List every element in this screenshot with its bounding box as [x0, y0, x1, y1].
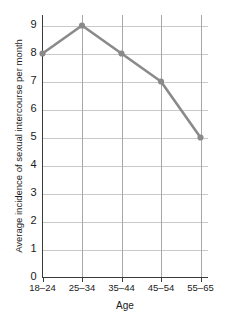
- x-axis-tick-label: 18–24: [29, 282, 55, 293]
- chart-canvas: 0123456789 18–2425–3435–4445–5455–65 Age…: [0, 0, 229, 325]
- y-axis-tick-label: 8: [30, 46, 36, 58]
- data-point-marker: [118, 50, 124, 56]
- y-axis-tick-label: 7: [30, 74, 36, 86]
- x-axis-tick-label: 55–65: [187, 282, 213, 293]
- y-axis-tick-label: 5: [30, 130, 36, 142]
- y-axis-tick-label: 0: [30, 270, 36, 282]
- y-axis-tick-label: 2: [30, 214, 36, 226]
- y-axis-tick-label: 3: [30, 186, 36, 198]
- data-point-marker: [79, 22, 85, 28]
- y-axis-tick-label: 1: [30, 242, 36, 254]
- line-chart: 0123456789 18–2425–3435–4445–5455–65 Age…: [0, 0, 229, 325]
- y-axis-tick-label: 6: [30, 102, 36, 114]
- y-axis-title: Average incidence of sexual intercourse …: [13, 39, 24, 253]
- x-axis-title: Age: [116, 300, 134, 311]
- x-axis-tick-label: 25–34: [69, 282, 95, 293]
- y-axis-tick-label: 4: [30, 158, 36, 170]
- data-point-marker: [197, 134, 203, 140]
- x-axis-tick-label: 35–44: [108, 282, 134, 293]
- y-axis-tick-label: 9: [30, 18, 36, 30]
- x-axis-tick-label: 45–54: [148, 282, 174, 293]
- data-point-marker: [39, 50, 45, 56]
- data-point-marker: [158, 78, 164, 84]
